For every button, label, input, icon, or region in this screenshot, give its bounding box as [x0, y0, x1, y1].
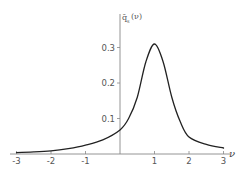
x-tick-label: -2: [47, 156, 55, 166]
x-tick-label: 1: [152, 156, 157, 166]
y-axis-title-arg: (ν): [131, 12, 142, 21]
y-tick-label: 0.3: [101, 43, 115, 53]
y-axis-title-sub: s: [127, 18, 130, 24]
x-tick-label: 3: [221, 156, 226, 166]
y-axis-title: q̄ s (ν): [122, 12, 142, 24]
y-tick-label: 0.2: [101, 78, 115, 88]
x-tick-labels: -3 -2 -1 1 2 3: [12, 156, 226, 166]
x-tick-label: -3: [12, 156, 20, 166]
x-tick-label: 2: [186, 156, 191, 166]
y-tick-label: 0.1: [101, 114, 115, 124]
y-tick-labels: 0.1 0.2 0.3: [101, 43, 115, 124]
chart: -3 -2 -1 1 2 3 ν 0.1 0.2 0.3 q̄ s (ν): [0, 0, 243, 170]
x-tick-label: -1: [81, 156, 89, 166]
x-axis-title: ν: [229, 148, 235, 159]
